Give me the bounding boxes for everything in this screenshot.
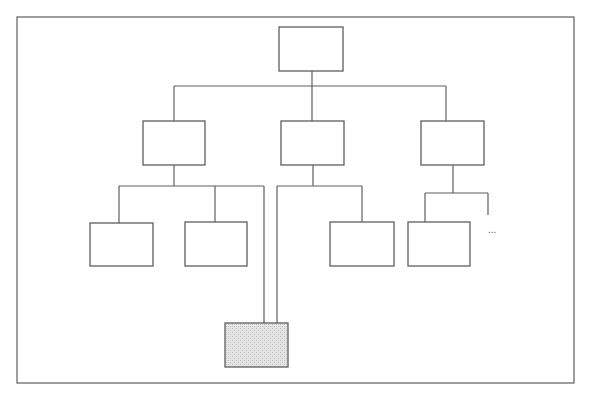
node-l2-middle[interactable] [281, 121, 344, 165]
node-l3-middle-a[interactable] [330, 222, 394, 266]
node-l2-right[interactable] [421, 121, 484, 165]
node-l3-left-a[interactable] [90, 223, 153, 266]
node-l2-left[interactable] [143, 121, 205, 165]
node-l3-right-a[interactable] [408, 222, 470, 266]
diagram-frame [17, 17, 574, 383]
org-chart-diagram: ... [0, 0, 590, 397]
continuation-ellipsis: ... [488, 224, 496, 235]
node-root[interactable] [279, 27, 343, 71]
node-shared-child[interactable] [225, 323, 288, 367]
node-l3-left-b[interactable] [185, 222, 247, 266]
